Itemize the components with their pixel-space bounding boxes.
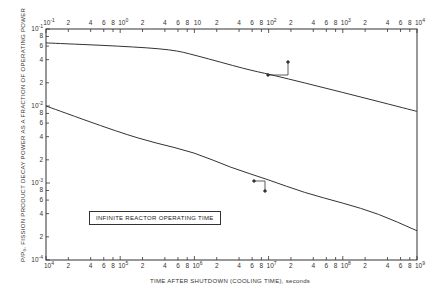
lower-curve-axis-indicator [253,180,267,193]
tick-label: 6 [176,262,180,269]
tick-label: 104 [415,17,425,26]
tick-label: 2 [289,262,293,269]
tick-label: 2 [141,19,145,26]
tick-label: 6 [102,19,106,26]
tick-label: 4 [89,19,93,26]
tick-label: 4 [163,19,167,26]
annotation-box: INFINITE REACTOR OPERATING TIME [89,211,221,225]
tick-label: 107 [267,260,277,269]
tick-label: 10-1 [31,23,43,32]
tick-label: 2 [363,19,367,26]
tick-label: 4 [89,262,93,269]
arrow-up-icon [287,61,290,64]
tick-label: 4 [386,262,390,269]
x-axis-title: TIME AFTER SHUTDOWN (COOLING TIME), seco… [150,278,310,284]
y-axis-title: P/P₀, FISSION PRODUCT DECAY POWER AS A F… [20,7,26,262]
tick-label: 8 [111,262,115,269]
tick-label: 4 [237,19,241,26]
y-axis-ticks: 10-1864210-2864210-3864210-4 [31,23,50,263]
tick-label: 4 [237,262,241,269]
tick-label: 4 [163,262,167,269]
tick-label: 8 [408,262,412,269]
tick-label: 4 [39,133,43,140]
tick-label: 2 [39,233,43,240]
tick-label: 8 [408,19,412,26]
tick-label: 2 [39,156,43,163]
tick-label: 8 [260,19,264,26]
tick-label: 10-4 [31,254,43,263]
tick-label: 104 [44,260,54,269]
tick-label: 8 [334,19,338,26]
tick-label: 6 [39,196,43,203]
tick-label: 105 [118,260,128,269]
tick-label: 8 [39,32,43,39]
tick-label: 2 [141,262,145,269]
tick-label: 6 [399,262,403,269]
upper-decay-curve [46,43,417,112]
tick-label: 103 [341,17,351,26]
tick-label: 4 [39,56,43,63]
arrow-left-icon [253,180,256,183]
tick-label: 6 [325,262,329,269]
tick-label: 109 [415,260,425,269]
tick-label: 4 [39,210,43,217]
tick-label: 2 [215,19,219,26]
tick-label: 6 [39,119,43,126]
tick-label: 6 [399,19,403,26]
tick-label: 10 [194,19,202,26]
tick-label: 10-3 [31,177,43,186]
tick-label: 6 [102,262,106,269]
tick-label: 6 [250,262,254,269]
arrow-left-icon [267,74,270,77]
tick-label: 10-2 [31,100,43,109]
tick-label: 8 [260,262,264,269]
tick-label: 6 [39,42,43,49]
tick-label: 8 [334,262,338,269]
x-axis-bottom-ticks: 10424681052468106246810724681082468109 [44,256,425,269]
tick-label: 6 [176,19,180,26]
arrow-down-icon [264,190,267,193]
tick-label: 4 [311,19,315,26]
tick-label: 2 [215,262,219,269]
tick-label: 108 [341,260,351,269]
tick-label: 4 [386,19,390,26]
tick-label: 8 [185,262,189,269]
tick-label: 10-1 [43,17,55,26]
x-axis-top-ticks: 10-12468100246810246810224681032468104 [43,17,425,33]
tick-label: 8 [111,19,115,26]
plot-frame [46,29,417,260]
tick-label: 2 [67,262,71,269]
tick-label: 2 [39,79,43,86]
tick-label: 4 [311,262,315,269]
tick-label: 8 [39,109,43,116]
tick-label: 8 [39,186,43,193]
tick-label: 2 [289,19,293,26]
tick-label: 100 [118,17,128,26]
tick-label: 102 [267,17,277,26]
tick-label: 8 [185,19,189,26]
tick-label: 106 [192,260,202,269]
upper-curve-axis-indicator [267,61,290,77]
tick-label: 6 [325,19,329,26]
tick-label: 2 [67,19,71,26]
tick-label: 6 [250,19,254,26]
tick-label: 2 [363,262,367,269]
decay-power-chart: 10-1864210-2864210-3864210-4 10424681052… [0,0,439,300]
